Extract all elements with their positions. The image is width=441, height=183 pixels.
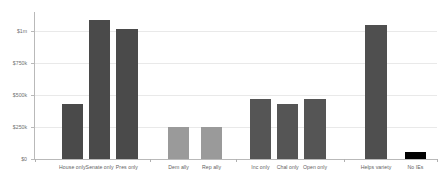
- y-axis: $0$250k$500k$750k$1m: [0, 12, 31, 159]
- bar-house-only: [62, 104, 84, 159]
- x-tick-label-house-only: House only: [59, 164, 85, 171]
- y-tick-label: $1m: [17, 28, 27, 34]
- bar-chart: $0$250k$500k$750k$1m House onlySenate on…: [0, 0, 441, 183]
- bar-chal-only: [277, 104, 299, 159]
- bars-layer: [35, 12, 437, 159]
- x-tick-label-helps-variety: Helps variety: [361, 164, 392, 171]
- bar-pres-only: [116, 29, 138, 159]
- x-tick-label-rep-ally: Rep ally: [202, 164, 221, 171]
- x-tick-label-chal-only: Chal only: [277, 164, 299, 171]
- group-separator-4: [437, 159, 438, 162]
- bar-dem-ally: [168, 127, 190, 159]
- bar-inc-only: [250, 99, 272, 159]
- x-tick-label-open-only: Open only: [303, 164, 327, 171]
- bar-no-ies: [405, 152, 427, 159]
- y-tick-label: $750k: [13, 60, 27, 66]
- bar-helps-variety: [365, 25, 387, 159]
- x-tick-label-dem-ally: Dem ally: [168, 164, 189, 171]
- x-tick-label-senate-only: Senate only: [86, 164, 114, 171]
- bar-open-only: [304, 99, 326, 159]
- bar-senate-only: [89, 20, 111, 159]
- x-tick-label-no-ies: No IEs: [408, 164, 424, 171]
- x-tick-label-pres-only: Pres only: [116, 164, 138, 171]
- x-axis-labels: House onlySenate onlyPres onlyDem allyRe…: [35, 161, 437, 181]
- y-tick-label: $250k: [13, 124, 27, 130]
- y-tick-label: $500k: [13, 92, 27, 98]
- y-tick-label: $0: [21, 156, 27, 162]
- x-tick-label-inc-only: Inc only: [251, 164, 269, 171]
- bar-rep-ally: [201, 127, 223, 159]
